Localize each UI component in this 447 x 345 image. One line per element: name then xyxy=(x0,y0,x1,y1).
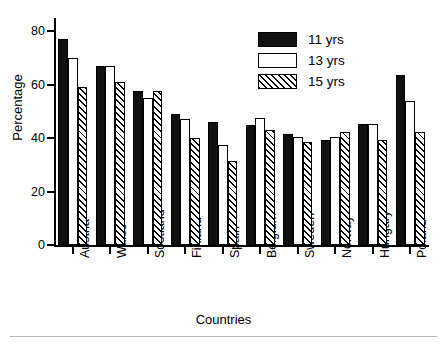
y-tick-label: 0 xyxy=(38,239,45,252)
x-tick xyxy=(297,247,299,254)
bar xyxy=(68,58,78,245)
bar xyxy=(78,87,88,245)
y-tick xyxy=(47,191,54,193)
legend-label-11yrs: 11 yrs xyxy=(308,31,344,49)
plot-area: 020406080 xyxy=(54,18,429,247)
bar-group xyxy=(171,18,200,245)
bar xyxy=(255,118,265,245)
x-tick xyxy=(259,247,261,254)
bar xyxy=(293,137,303,245)
bar xyxy=(246,125,256,245)
bar-group xyxy=(358,18,387,245)
x-tick xyxy=(109,247,111,254)
x-axis-label: Countries xyxy=(0,312,447,327)
bar-group xyxy=(58,18,87,245)
bar xyxy=(321,140,331,245)
legend-swatch-13yrs xyxy=(258,53,297,68)
bar xyxy=(303,142,313,245)
y-tick-label: 20 xyxy=(31,185,45,198)
bar xyxy=(115,82,125,245)
bar xyxy=(133,91,143,245)
bar xyxy=(58,39,68,245)
x-tick xyxy=(72,247,74,254)
bar xyxy=(415,132,425,246)
y-axis-label: Percentage xyxy=(10,48,25,168)
bar xyxy=(358,124,368,246)
bar-group xyxy=(133,18,162,245)
bar xyxy=(171,114,181,245)
bar xyxy=(283,134,293,245)
bar-group xyxy=(96,18,125,245)
y-tick xyxy=(47,137,54,139)
bar xyxy=(180,119,190,245)
bar xyxy=(265,130,275,245)
y-tick xyxy=(47,30,54,32)
legend-swatch-11yrs xyxy=(258,32,297,47)
y-tick-label: 80 xyxy=(31,25,45,38)
bar xyxy=(96,66,106,245)
bar xyxy=(330,137,340,245)
bar-group xyxy=(208,18,237,245)
legend-swatch-15yrs xyxy=(258,74,297,89)
bar-group xyxy=(396,18,425,245)
y-axis-spine xyxy=(54,18,56,247)
legend-label-15yrs: 15 yrs xyxy=(308,73,345,91)
bottom-rule xyxy=(10,336,437,337)
x-tick xyxy=(334,247,336,254)
y-tick-label: 40 xyxy=(31,132,45,145)
y-tick xyxy=(47,244,54,246)
bar xyxy=(208,122,218,245)
bar xyxy=(228,161,238,245)
y-tick xyxy=(47,84,54,86)
x-tick xyxy=(372,247,374,254)
bar xyxy=(378,140,388,245)
bar xyxy=(105,66,115,245)
bar xyxy=(340,132,350,246)
bar xyxy=(396,75,406,245)
x-tick xyxy=(409,247,411,254)
bar xyxy=(143,98,153,245)
bar xyxy=(218,145,228,245)
x-tick xyxy=(147,247,149,254)
x-tick xyxy=(222,247,224,254)
bar xyxy=(153,91,163,245)
x-tick xyxy=(184,247,186,254)
bar xyxy=(368,124,378,246)
bar xyxy=(405,101,415,245)
y-tick-label: 60 xyxy=(31,79,45,92)
chart-figure: Percentage 020406080 AustriaWalesScotlan… xyxy=(0,0,447,345)
legend-label-13yrs: 13 yrs xyxy=(308,52,345,70)
bar xyxy=(190,138,200,245)
